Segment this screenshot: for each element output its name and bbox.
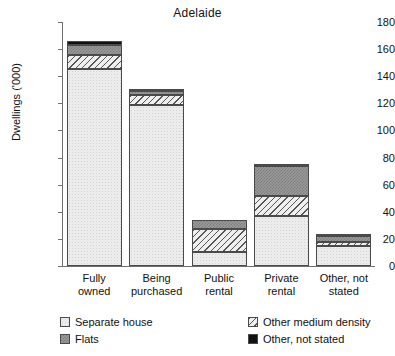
bar-other-not-stated[interactable] — [316, 22, 371, 266]
bar-segment-separate-house[interactable] — [254, 216, 309, 266]
bar-segment-separate-house[interactable] — [192, 252, 247, 266]
bar-segment-other-medium-density[interactable] — [316, 242, 371, 246]
legend-item[interactable]: Flats — [60, 333, 99, 345]
legend-swatch-icon — [248, 317, 258, 327]
chart-legend: Separate houseFlatsOther medium densityO… — [60, 316, 390, 350]
x-axis-tick-label: Other, notstated — [301, 272, 387, 298]
bar-segment-flats[interactable] — [67, 45, 122, 54]
legend-item[interactable]: Separate house — [60, 316, 153, 328]
y-axis-tick — [58, 266, 63, 267]
bar-segment-flats[interactable] — [192, 220, 247, 229]
bar-segment-other-not-stated[interactable] — [316, 234, 371, 236]
chart-container: Adelaide Dwellings ('000) 02040608010012… — [0, 0, 395, 356]
bar-segment-flats[interactable] — [254, 166, 309, 195]
bar-segment-flats[interactable] — [129, 91, 184, 95]
chart-title: Adelaide — [0, 6, 395, 20]
x-axis-tick-label-line: Other, not — [301, 272, 387, 285]
legend-item[interactable]: Other, not stated — [248, 333, 344, 345]
bar-segment-separate-house[interactable] — [129, 105, 184, 266]
legend-swatch-icon — [60, 334, 70, 344]
legend-label: Other medium density — [263, 316, 371, 328]
bar-segment-other-medium-density[interactable] — [67, 55, 122, 70]
legend-label: Separate house — [75, 316, 153, 328]
bar-being-purchased[interactable] — [129, 22, 184, 266]
legend-swatch-icon — [60, 317, 70, 327]
bar-segment-other-not-stated[interactable] — [67, 41, 122, 45]
legend-label: Flats — [75, 333, 99, 345]
bar-segment-separate-house[interactable] — [67, 69, 122, 266]
x-axis-line — [62, 266, 375, 267]
bar-segment-separate-house[interactable] — [316, 246, 371, 266]
legend-label: Other, not stated — [263, 333, 344, 345]
legend-item[interactable]: Other medium density — [248, 316, 371, 328]
bar-segment-other-medium-density[interactable] — [254, 196, 309, 216]
bar-segment-other-medium-density[interactable] — [192, 229, 247, 252]
legend-swatch-icon — [248, 334, 258, 344]
plot-area — [63, 22, 375, 266]
bar-segment-flats[interactable] — [316, 236, 371, 242]
bar-private-rental[interactable] — [254, 22, 309, 266]
x-axis-tick-label-line: stated — [301, 285, 387, 298]
bar-fully-owned[interactable] — [67, 22, 122, 266]
bar-segment-other-not-stated[interactable] — [254, 164, 309, 166]
bar-public-rental[interactable] — [192, 22, 247, 266]
y-axis-label: Dwellings ('000) — [10, 42, 22, 162]
bar-segment-other-medium-density[interactable] — [129, 95, 184, 104]
bar-segment-other-not-stated[interactable] — [129, 89, 184, 91]
